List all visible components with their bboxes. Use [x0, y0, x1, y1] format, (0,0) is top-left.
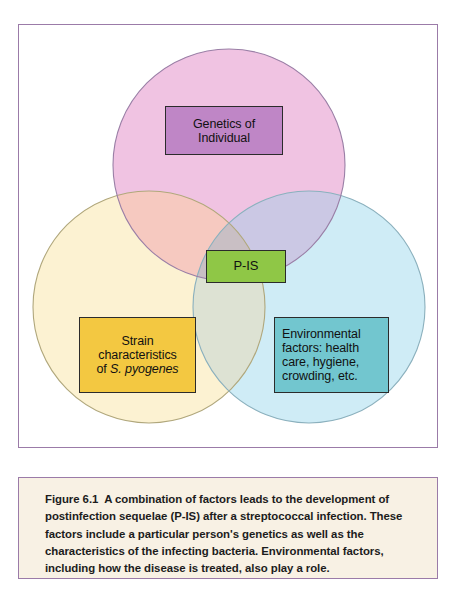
venn-diagram: Genetics of Individual P-IS Strain chara…	[19, 25, 437, 447]
environmental-label-line-2: factors: health	[282, 341, 359, 355]
caption-body: A combination of factors leads to the de…	[45, 493, 402, 574]
strain-label-box: Strain characteristics of S. pyogenes	[79, 317, 196, 393]
figure-root: Genetics of Individual P-IS Strain chara…	[0, 0, 458, 597]
strain-label-species: S. pyogenes	[110, 362, 178, 376]
environmental-label-line-3: care, hygiene,	[282, 355, 359, 369]
genetics-label-box: Genetics of Individual	[165, 106, 283, 155]
pis-label-box: P-IS	[206, 250, 286, 283]
environmental-label-line-4: crowding, etc.	[282, 369, 358, 383]
genetics-label-line-1: Genetics of	[193, 117, 255, 131]
environmental-label-box: Environmental factors: health care, hygi…	[274, 317, 389, 393]
genetics-label-line-2: Individual	[198, 131, 250, 145]
figure-caption-panel: Figure 6.1 A combination of factors lead…	[18, 477, 438, 579]
strain-label-line-3: of S. pyogenes	[96, 362, 178, 376]
strain-label-line-2: characteristics	[98, 348, 176, 362]
environmental-label-line-1: Environmental	[282, 327, 361, 341]
strain-label-line-1: Strain	[121, 334, 153, 348]
strain-label-of: of	[96, 362, 110, 376]
figure-number: Figure 6.1	[45, 493, 98, 505]
pis-label-line-1: P-IS	[234, 259, 259, 274]
figure-frame: Genetics of Individual P-IS Strain chara…	[18, 24, 438, 448]
figure-caption-text: Figure 6.1 A combination of factors lead…	[45, 491, 415, 578]
